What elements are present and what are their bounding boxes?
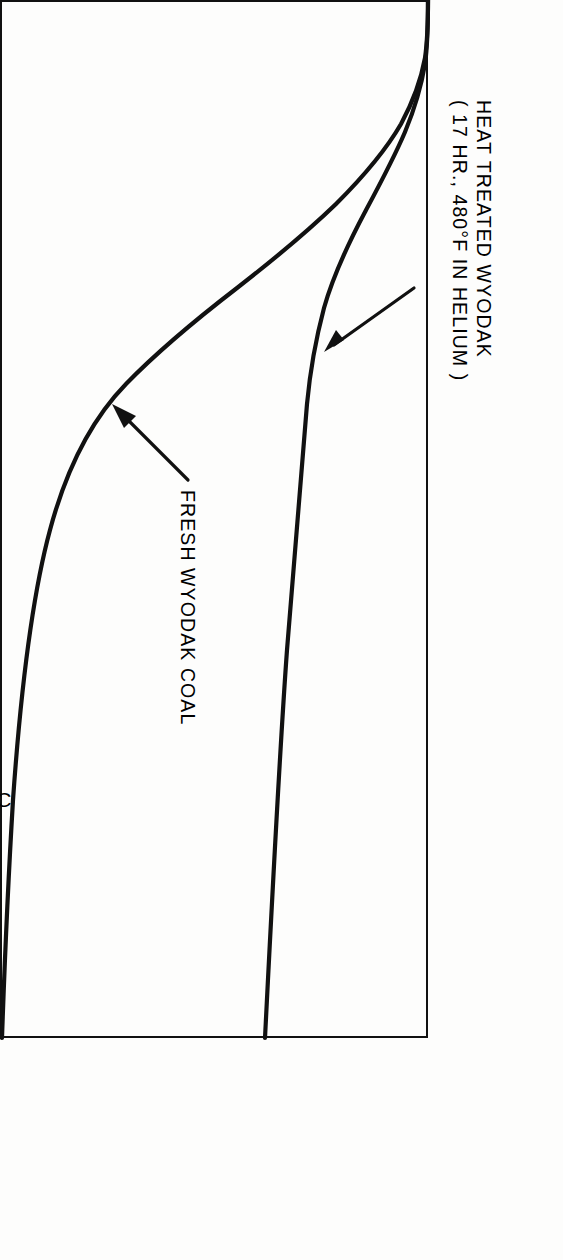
heat-treated-annotation-line1: HEAT TREATED WYODAK — [472, 100, 496, 381]
heat-treated-annotation-arrow — [324, 288, 414, 352]
chart-stage: 100 150 200 250 300 350 400 450 500 550 … — [0, 0, 428, 1038]
fresh-wyodak-coal-annotation: FRESH WYODAK COAL — [175, 490, 199, 725]
fresh-coal-annotation-arrow — [112, 404, 188, 480]
chart-curves — [0, 0, 428, 1038]
fresh-coal-annotation-line1: FRESH WYODAK COAL — [175, 490, 199, 725]
x-axis-title: TEMPERATURE °C — [0, 788, 13, 812]
figure-page: 100 150 200 250 300 350 400 450 500 550 … — [0, 0, 563, 1260]
series-line-heat-treated-wyodak — [265, 0, 428, 1038]
heat-treated-annotation-line2: ( 17 HR., 480°F IN HELIUM ) — [447, 100, 471, 381]
series-line-fresh-wyodak-coal — [2, 0, 428, 1038]
heat-treated-wyodak-annotation: HEAT TREATED WYODAK ( 17 HR., 480°F IN H… — [447, 100, 496, 381]
